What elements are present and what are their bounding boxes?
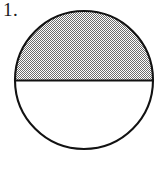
circle-diagram-svg [0,0,163,190]
pie-slice-shaded [10,6,158,80]
figure-root: 1. [0,0,163,190]
circle-diagram [0,0,163,190]
